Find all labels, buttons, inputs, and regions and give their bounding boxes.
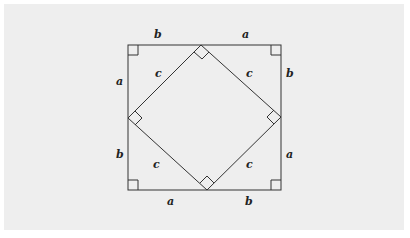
right-angle-mark-inner-top bbox=[194, 52, 209, 59]
right-angle-mark-top-left bbox=[128, 45, 138, 55]
label-hyp-bottom-left: c bbox=[153, 158, 160, 171]
label-left-bottom: b bbox=[116, 148, 124, 161]
label-top-right: a bbox=[242, 28, 249, 41]
label-left-top: a bbox=[116, 75, 123, 88]
right-angle-mark-top-right bbox=[271, 45, 281, 55]
label-hyp-bottom-right: c bbox=[246, 158, 253, 171]
label-hyp-top-left: c bbox=[155, 67, 162, 80]
right-angle-mark-bottom-right bbox=[271, 180, 281, 190]
right-angle-mark-inner-left bbox=[135, 111, 142, 125]
right-angle-mark-inner-right bbox=[267, 110, 274, 124]
outer-square bbox=[128, 45, 281, 190]
label-top-left: b bbox=[154, 28, 162, 41]
label-right-top: b bbox=[286, 67, 294, 80]
label-bottom-left: a bbox=[167, 195, 174, 208]
label-right-bottom: a bbox=[286, 148, 293, 161]
label-hyp-top-right: c bbox=[246, 67, 253, 80]
inner-square bbox=[128, 45, 281, 190]
label-bottom-right: b bbox=[245, 195, 253, 208]
right-angle-mark-inner-bottom bbox=[200, 176, 214, 183]
right-angle-mark-bottom-left bbox=[128, 180, 138, 190]
pythagorean-proof-diagram: b a a b b a a b c c c c bbox=[0, 0, 410, 238]
